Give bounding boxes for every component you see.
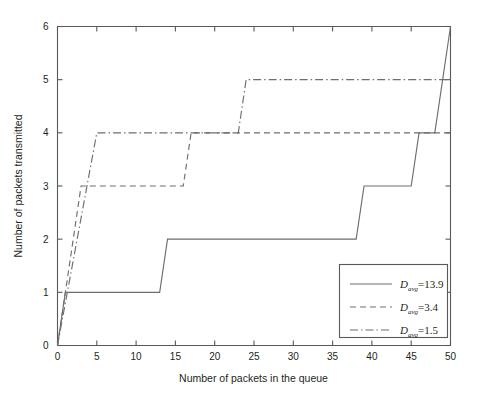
- y-tick-label: 6: [43, 21, 49, 32]
- x-tick-label: 40: [366, 351, 378, 362]
- y-tick-label: 0: [43, 340, 49, 351]
- x-tick-label: 30: [288, 351, 300, 362]
- x-tick-label: 5: [94, 351, 100, 362]
- x-axis-title: Number of packets in the queue: [179, 372, 328, 384]
- x-tick-label: 35: [327, 351, 339, 362]
- y-tick-label: 4: [43, 127, 49, 138]
- y-tick-label: 1: [43, 287, 49, 298]
- y-tick-label: 2: [43, 234, 49, 245]
- y-axis-title: Number of packets transmitted: [12, 114, 24, 257]
- x-tick-label: 0: [55, 351, 61, 362]
- y-tick-label: 3: [43, 181, 49, 192]
- x-tick-label: 15: [170, 351, 182, 362]
- chart-figure: 05101520253035404550 0123456 Number of p…: [0, 0, 479, 405]
- chart-background: [0, 0, 479, 405]
- line-chart: 05101520253035404550 0123456 Number of p…: [0, 0, 479, 405]
- chart-legend: Davg=13.9Davg=3.4Davg=1.5: [340, 265, 448, 340]
- x-tick-label: 10: [131, 351, 143, 362]
- x-tick-label: 45: [406, 351, 418, 362]
- x-tick-label: 50: [445, 351, 457, 362]
- y-tick-label: 5: [43, 74, 49, 85]
- x-tick-label: 20: [209, 351, 221, 362]
- x-tick-label: 25: [248, 351, 260, 362]
